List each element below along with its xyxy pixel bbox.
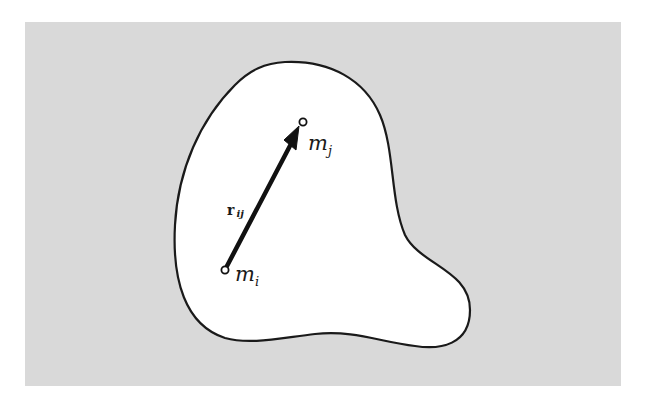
point-mi-marker bbox=[221, 266, 228, 273]
body-outline bbox=[175, 62, 470, 347]
point-mj-marker bbox=[299, 118, 306, 125]
rigid-body-diagram: mj mi rij bbox=[0, 0, 647, 399]
diagram-stage: mj mi rij bbox=[0, 0, 647, 399]
